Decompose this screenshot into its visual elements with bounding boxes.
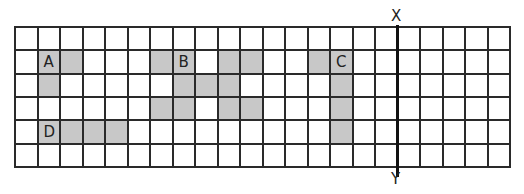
shape-label-a: A (44, 55, 54, 70)
shaded-cell-b (218, 97, 241, 120)
xy-axis-line (396, 25, 399, 177)
grid-line-horizontal (14, 26, 511, 28)
shaded-cell-b (150, 50, 173, 73)
axis-label-y: Y (391, 172, 400, 187)
grid-line-horizontal (14, 49, 511, 51)
shaded-cell-b (173, 74, 196, 97)
shape-label-d: D (44, 125, 56, 140)
shaded-cell-c (330, 120, 353, 143)
shaded-cell-a (38, 74, 61, 97)
shape-label-b: B (179, 55, 189, 70)
grid-line-horizontal (14, 96, 511, 98)
shaded-cell-b (240, 97, 263, 120)
shaded-cell-b (150, 97, 173, 120)
shaded-cell-b (173, 97, 196, 120)
shaded-cell-a (60, 50, 83, 73)
shaded-cell-d (105, 120, 128, 143)
shape-label-c: C (336, 55, 346, 70)
shaded-cell-b (195, 74, 218, 97)
axis-label-x: X (391, 9, 401, 24)
grid: ABCD (15, 27, 510, 167)
grid-line-horizontal (14, 73, 511, 75)
grid-line-horizontal (14, 119, 511, 121)
shaded-cell-c (330, 74, 353, 97)
grid-line-horizontal (14, 166, 511, 168)
shaded-cell-b (218, 50, 241, 73)
grid-line-horizontal (14, 143, 511, 145)
shaded-cell-d (60, 120, 83, 143)
shaded-cell-b (218, 74, 241, 97)
shaded-cell-c (308, 50, 331, 73)
shaded-cell-c (330, 97, 353, 120)
shaded-cell-b (240, 50, 263, 73)
shaded-cell-d (83, 120, 106, 143)
